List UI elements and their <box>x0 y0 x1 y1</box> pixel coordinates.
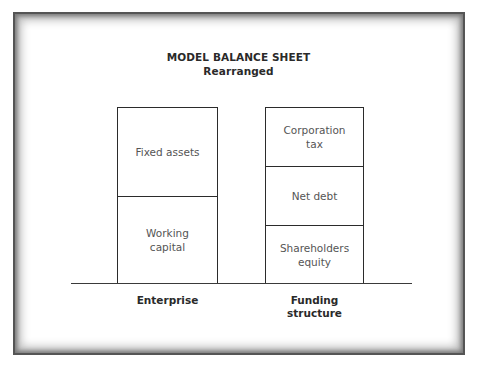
block-shareholders-equity-line2: equity <box>280 255 349 269</box>
picture-frame <box>13 12 465 355</box>
block-working-capital: Working capital <box>118 197 217 283</box>
funding-stack: Corporation tax Net debt Shareholders eq… <box>265 107 364 284</box>
diagram-title: MODEL BALANCE SHEET <box>0 51 477 63</box>
enterprise-stack: Fixed assets Working capital <box>117 107 218 284</box>
block-corporation-tax-line2: tax <box>283 137 345 151</box>
block-net-debt-label: Net debt <box>292 189 338 203</box>
block-fixed-assets: Fixed assets <box>118 108 217 196</box>
block-fixed-assets-label: Fixed assets <box>136 145 200 159</box>
diagram-subtitle: Rearranged <box>0 65 477 77</box>
block-working-capital-line1: Working <box>146 226 189 240</box>
block-shareholders-equity: Shareholders equity <box>266 226 363 283</box>
block-shareholders-equity-line1: Shareholders <box>280 241 349 255</box>
block-net-debt: Net debt <box>266 167 363 225</box>
baseline <box>71 283 412 284</box>
enterprise-label: Enterprise <box>117 294 218 307</box>
block-corporation-tax: Corporation tax <box>266 108 363 166</box>
funding-label-line2: structure <box>265 307 364 320</box>
block-corporation-tax-line1: Corporation <box>283 123 345 137</box>
block-working-capital-line2: capital <box>146 240 189 254</box>
funding-label-line1: Funding <box>265 294 364 307</box>
